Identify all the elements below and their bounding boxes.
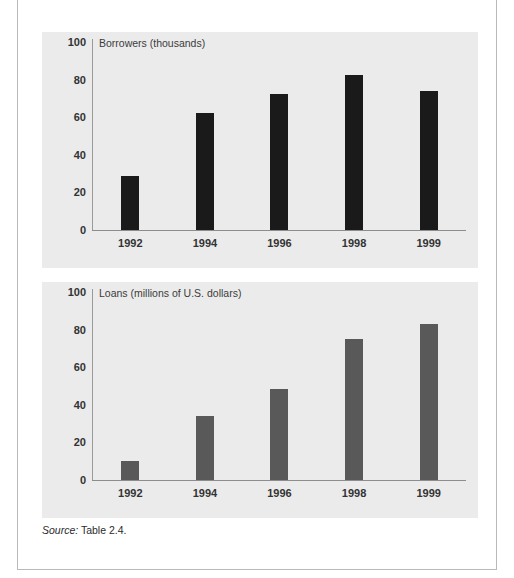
bar-loans-1996 — [270, 389, 288, 480]
bar-slot: 1998 — [317, 32, 392, 268]
y-axis-tick-loans-80: 80 — [42, 325, 86, 336]
x-axis-label-borrowers-1992: 1992 — [118, 238, 142, 249]
x-axis-label-borrowers-1994: 1994 — [193, 238, 217, 249]
y-axis-tick-borrowers-40: 40 — [42, 150, 86, 161]
bar-borrowers-1998 — [345, 75, 363, 230]
bar-borrowers-1992 — [121, 176, 139, 230]
x-axis-label-borrowers-1996: 1996 — [267, 238, 291, 249]
bar-group-loans: 19921994199619981999 — [93, 282, 466, 518]
bar-loans-1998 — [345, 339, 363, 480]
bar-slot: 1994 — [168, 282, 243, 518]
chart-panel-borrowers: Borrowers (thousands) 199219941996199819… — [42, 32, 478, 268]
bar-group-borrowers: 19921994199619981999 — [93, 32, 466, 268]
bar-slot: 1994 — [168, 32, 243, 268]
bar-slot: 1999 — [391, 32, 466, 268]
y-axis-tick-borrowers-80: 80 — [42, 75, 86, 86]
y-axis-tick-loans-20: 20 — [42, 437, 86, 448]
x-axis-label-loans-1994: 1994 — [193, 488, 217, 499]
y-axis-tick-loans-0: 0 — [42, 475, 86, 486]
y-axis-tick-loans-60: 60 — [42, 362, 86, 373]
x-axis-label-loans-1998: 1998 — [342, 488, 366, 499]
bar-loans-1994 — [196, 416, 214, 480]
bar-slot: 1998 — [317, 282, 392, 518]
bar-slot: 1996 — [242, 282, 317, 518]
bar-borrowers-1996 — [270, 94, 288, 230]
x-axis-label-borrowers-1999: 1999 — [416, 238, 440, 249]
plot-area-borrowers: Borrowers (thousands) 199219941996199819… — [42, 32, 478, 268]
bar-loans-1999 — [420, 324, 438, 480]
chart-panel-loans: Loans (millions of U.S. dollars) 1992199… — [42, 282, 478, 518]
y-axis-tick-borrowers-0: 0 — [42, 225, 86, 236]
y-axis-tick-loans-100: 100 — [42, 287, 86, 298]
bar-borrowers-1994 — [196, 113, 214, 230]
source-label: Source: — [42, 524, 78, 536]
bar-loans-1992 — [121, 461, 139, 480]
y-axis-tick-borrowers-100: 100 — [42, 37, 86, 48]
x-axis-label-loans-1992: 1992 — [118, 488, 142, 499]
source-text: Table 2.4. — [81, 524, 127, 536]
bar-slot: 1992 — [93, 282, 168, 518]
source-caption: Source: Table 2.4. — [42, 525, 126, 536]
plot-area-loans: Loans (millions of U.S. dollars) 1992199… — [42, 282, 478, 518]
y-axis-tick-borrowers-60: 60 — [42, 112, 86, 123]
x-axis-label-borrowers-1998: 1998 — [342, 238, 366, 249]
bar-borrowers-1999 — [420, 91, 438, 230]
x-axis-label-loans-1996: 1996 — [267, 488, 291, 499]
bar-slot: 1999 — [391, 282, 466, 518]
bar-slot: 1996 — [242, 32, 317, 268]
bar-slot: 1992 — [93, 32, 168, 268]
y-axis-tick-loans-40: 40 — [42, 400, 86, 411]
x-axis-label-loans-1999: 1999 — [416, 488, 440, 499]
y-axis-tick-borrowers-20: 20 — [42, 187, 86, 198]
